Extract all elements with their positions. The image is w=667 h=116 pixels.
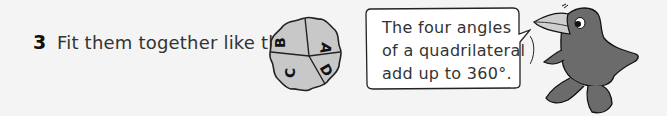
piece-label-b: B xyxy=(272,37,288,48)
piece-label-c: C xyxy=(282,68,298,78)
bubble-line-1: The four angles xyxy=(382,16,525,39)
bubble-line-2: of a quadrilateral xyxy=(382,39,525,62)
bubble-line-3: add up to 360°. xyxy=(382,62,525,85)
speech-bubble-text: The four angles of a quadrilateral add u… xyxy=(382,16,525,85)
fitted-angles-diagram: A B C D xyxy=(267,14,343,94)
step-instruction: Fit them together like this: xyxy=(57,32,301,53)
step-number: 3 xyxy=(33,31,46,53)
crow-mascot-icon xyxy=(530,0,667,116)
